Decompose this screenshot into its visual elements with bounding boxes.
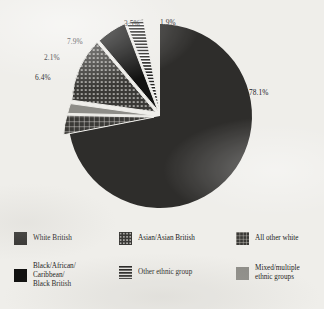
legend-swatch-black-african-caribbean xyxy=(14,269,27,282)
legend-item-mixed-multiple: Mixed/multiple ethnic groups xyxy=(236,264,300,282)
legend-label-all-other-white: All other white xyxy=(255,234,299,243)
legend-item-all-other-white: All other white xyxy=(236,232,299,245)
legend-swatch-white-british xyxy=(14,232,27,245)
pie-label-asian-asian-british: 7.9% xyxy=(67,37,83,46)
pie-label-white-british: 78.1% xyxy=(249,88,269,97)
legend-swatch-other-ethnic-group xyxy=(119,266,132,279)
chart-legend: White British Asian/Asian British All ot… xyxy=(0,224,324,309)
pie-chart-area: 78.1% 6.4% 2.1% 7.9% 3.5% 1.9% xyxy=(0,0,324,224)
legend-item-black-african-caribbean: Black/African/ Caribbean/ Black British xyxy=(14,262,76,290)
pie-label-other-ethnic-group: 1.9% xyxy=(160,18,176,27)
pie-label-all-other-white: 6.4% xyxy=(35,73,51,82)
legend-label-white-british: White British xyxy=(33,234,72,243)
legend-swatch-mixed-multiple xyxy=(236,267,249,280)
legend-item-other-ethnic-group: Other ethnic group xyxy=(119,266,192,279)
chart-page: 78.1% 6.4% 2.1% 7.9% 3.5% 1.9% White Bri… xyxy=(0,0,324,309)
legend-item-asian-asian-british: Asian/Asian British xyxy=(119,232,195,245)
legend-swatch-asian-asian-british xyxy=(119,232,132,245)
legend-item-white-british: White British xyxy=(14,232,72,245)
legend-label-mixed-multiple: Mixed/multiple ethnic groups xyxy=(255,264,300,282)
pie-chart-svg xyxy=(0,0,324,224)
legend-label-black-african-caribbean: Black/African/ Caribbean/ Black British xyxy=(33,262,76,290)
legend-swatch-all-other-white xyxy=(236,232,249,245)
pie-label-black-african-caribbean: 3.5% xyxy=(124,19,140,28)
legend-label-other-ethnic-group: Other ethnic group xyxy=(138,268,192,277)
pie-label-mixed-multiple: 2.1% xyxy=(44,53,60,62)
legend-label-asian-asian-british: Asian/Asian British xyxy=(138,234,195,243)
